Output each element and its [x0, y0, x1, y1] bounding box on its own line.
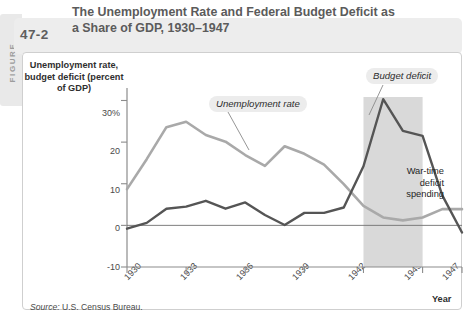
source-note: Source: U.S. Census Bureau.	[30, 302, 143, 312]
figure-title: The Unemployment Rate and Federal Budget…	[72, 4, 402, 36]
callout-budget-deficit: Budget deficit	[366, 68, 438, 84]
y-tick-label-30: 30%	[84, 108, 120, 118]
figure-number: 47-2	[20, 27, 49, 42]
source-label: Source:	[30, 302, 60, 312]
source-text: U.S. Census Bureau.	[62, 302, 143, 312]
wartime-note-line-3: spending	[372, 189, 444, 201]
wartime-note-line-1: War-time	[372, 166, 444, 178]
figure-container: FIGURE 47-2 The Unemployment Rate and Fe…	[0, 0, 476, 326]
y-axis-title: Unemployment rate, budget deficit (perce…	[24, 60, 124, 95]
wartime-note-line-2: deficit	[372, 178, 444, 190]
x-axis-title: Year	[432, 294, 451, 304]
callout-unemployment-rate: Unemployment rate	[209, 96, 307, 112]
y-tick-label-20: 20	[84, 146, 120, 156]
y-tick-label-neg10: -10	[84, 262, 120, 272]
y-tick-label-0: 0	[84, 223, 120, 233]
y-tick-label-10: 10	[84, 185, 120, 195]
